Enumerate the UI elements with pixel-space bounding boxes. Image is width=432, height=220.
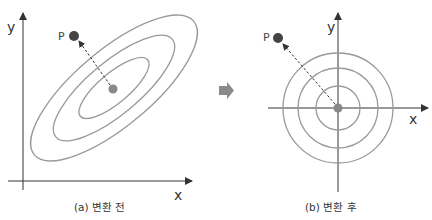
panel-a-y-label: y: [7, 20, 15, 34]
panel-a-x-label: x: [174, 188, 182, 202]
panel-a-dashed-arrow: [79, 41, 110, 85]
panel-b-p-label: P: [263, 32, 270, 43]
panel-a-p-label: P: [58, 31, 65, 42]
panel-b-x-label: x: [409, 112, 417, 126]
panel-b: [268, 13, 428, 192]
panel-b-caption: (b) 변환 후: [305, 201, 357, 213]
right-arrow-icon: [219, 82, 234, 99]
panel-b-point-p: [273, 33, 283, 43]
panel-b-center-point: [334, 104, 343, 113]
panel-a-caption: (a) 변환 전: [74, 201, 125, 213]
panel-b-y-label: y: [327, 20, 335, 34]
panel-a-point-p: [69, 31, 79, 41]
panel-a-center-point: [109, 85, 118, 94]
panel-b-dashed-arrow: [283, 44, 335, 104]
panel-a: [8, 0, 218, 190]
